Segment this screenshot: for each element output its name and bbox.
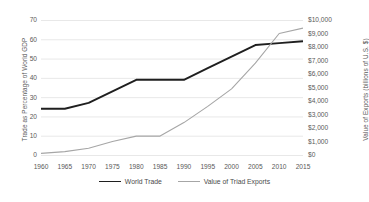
x-axis-tick-label: 1990: [172, 163, 196, 170]
x-axis-tick-label: 2015: [291, 163, 315, 170]
x-axis-tick-label: 1970: [77, 163, 101, 170]
x-axis-tick-label: 1965: [53, 163, 77, 170]
y-axis-right-tick-label: $2,000: [308, 124, 348, 131]
y-axis-left-tick-label: 0: [7, 151, 37, 158]
plot-area: [41, 20, 303, 155]
legend-swatch-icon: [99, 181, 121, 182]
x-axis-tick-label: 2000: [220, 163, 244, 170]
y-axis-right-tick-label: $5,000: [308, 84, 348, 91]
y-axis-left-tick-label: 70: [7, 16, 37, 23]
y-axis-right-tick-label: $7,000: [308, 57, 348, 64]
y-axis-left-tick-label: 60: [7, 36, 37, 43]
legend-entry[interactable]: Value of Triad Exports: [178, 178, 270, 185]
chart-legend: World TradeValue of Triad Exports: [0, 178, 369, 185]
y-axis-right-tick-label: $9,000: [308, 30, 348, 37]
legend-swatch-icon: [178, 181, 200, 182]
x-axis-tick-label: 2010: [267, 163, 291, 170]
y-axis-left-tick-label: 40: [7, 74, 37, 81]
chart-svg: [41, 20, 303, 156]
legend-label: Value of Triad Exports: [204, 178, 270, 185]
y-axis-right-tick-label: $1,000: [308, 138, 348, 145]
data-series-line-triad-exports: [41, 28, 303, 153]
x-axis-tick-label: 1995: [196, 163, 220, 170]
y-axis-left-tick-label: 20: [7, 113, 37, 120]
y-axis-left-tick-label: 10: [7, 132, 37, 139]
y-axis-right-tick-label: $3,000: [308, 111, 348, 118]
y-axis-left-tick-label: 30: [7, 94, 37, 101]
x-axis-tick-label: 1975: [100, 163, 124, 170]
y-axis-right-tick-label: $10,000: [308, 16, 348, 23]
y-axis-right-tick-label: $4,000: [308, 97, 348, 104]
y-axis-left-tick-label: 50: [7, 55, 37, 62]
y-axis-right-tick-label: $0: [308, 151, 348, 158]
legend-entry[interactable]: World Trade: [99, 178, 162, 185]
chart-container: Trade as Percentage of World GDP Value o…: [0, 0, 369, 202]
x-axis-tick-label: 1980: [124, 163, 148, 170]
y-axis-right-tick-label: $6,000: [308, 70, 348, 77]
legend-label: World Trade: [125, 178, 162, 185]
data-series-line-world-trade: [41, 41, 303, 109]
x-axis-tick-label: 1985: [148, 163, 172, 170]
x-axis-tick-label: 2005: [243, 163, 267, 170]
x-axis-tick-label: 1960: [29, 163, 53, 170]
y-axis-right-title: Value of Exports (billions of U.S. $): [362, 20, 369, 160]
y-axis-right-tick-label: $8,000: [308, 43, 348, 50]
